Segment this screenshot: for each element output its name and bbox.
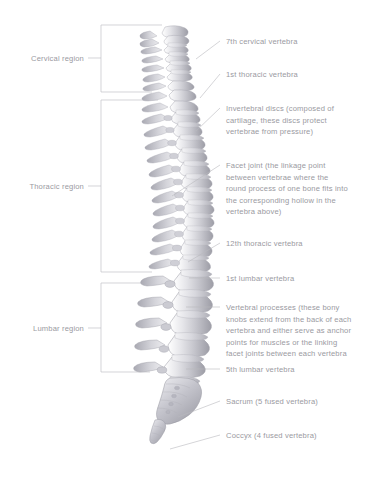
leader-c7 [196, 41, 220, 59]
callout-5th-lumbar-vertebra: 5th lumbar vertebra [226, 364, 378, 376]
callout-1st-thoracic-vertebra: 1st thoracic vertebra [226, 69, 378, 81]
callout-sacrum: Sacrum (5 fused vertebra) [226, 396, 378, 408]
region-label-cervical: Cervical region [0, 54, 84, 63]
vertebral-column [134, 26, 215, 444]
callout-12th-thoracic-vertebra: 12th thoracic vertebra [226, 238, 378, 250]
region-label-lumbar: Lumbar region [0, 324, 84, 333]
cervical-vertebrae [140, 26, 194, 92]
lumbar-vertebrae [134, 270, 214, 385]
callout-vertebral-processes: Vertebral processes (these bony knobs ex… [226, 302, 382, 360]
callout-1st-lumbar-vertebra: 1st lumbar vertebra [226, 273, 378, 285]
region-label-thoracic: Thoracic region [0, 182, 84, 191]
callout-facet-joint: Facet joint (the linkage point between v… [226, 160, 382, 218]
callout-intervertebral-discs: Invertebral discs (composed of cartilage… [226, 103, 382, 138]
bracket-thoracic [88, 100, 158, 272]
callout-coccyx: Coccyx (4 fused vertebra) [226, 430, 378, 442]
callout-7th-cervical-vertebra: 7th cervical vertebra [226, 36, 378, 48]
leader-t1 [200, 74, 220, 98]
spine-anatomy-figure: Cervical region Thoracic region Lumbar r… [0, 0, 383, 478]
leader-coccyx [170, 435, 220, 449]
thoracic-vertebrae [142, 110, 214, 273]
